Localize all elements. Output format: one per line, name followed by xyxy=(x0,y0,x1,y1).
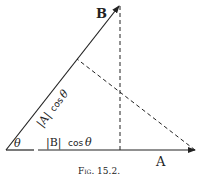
vector-b-line xyxy=(6,6,119,150)
angle-label: θ xyxy=(14,137,21,150)
vector-b-label: B xyxy=(96,6,107,21)
proj-b-on-a-label: |B| cos θ xyxy=(46,136,92,150)
projection-a-dashed xyxy=(77,59,195,150)
svg-text:θ: θ xyxy=(85,136,92,149)
vector-a-label: A xyxy=(155,154,166,169)
proj-a-on-b-label: |A| cos θ xyxy=(34,87,72,130)
figure-caption: Fig. 15.2. xyxy=(78,166,120,176)
vector-projection-diagram: B A θ |B| cos θ |A| cos θ Fig. 15.2. xyxy=(0,0,198,176)
svg-text:cos: cos xyxy=(68,138,83,148)
svg-text:|A|: |A| xyxy=(34,110,54,131)
svg-text:|B|: |B| xyxy=(46,136,62,150)
